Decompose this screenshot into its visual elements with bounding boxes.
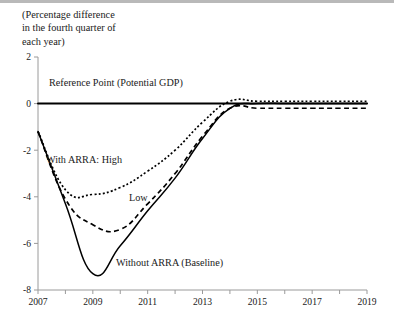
y-axis-tick-labels: 20-2-4-6-8 bbox=[23, 51, 31, 295]
x-tick-label: 2019 bbox=[357, 296, 376, 307]
x-tick-label: 2011 bbox=[138, 296, 157, 307]
y-axis-ticks bbox=[34, 57, 38, 290]
y-tick-label: -2 bbox=[23, 145, 31, 156]
chart-plot: 20-2-4-6-8 2007200920112013201520172019 … bbox=[0, 0, 394, 311]
x-axis-tick-labels: 2007200920112013201520172019 bbox=[28, 296, 376, 307]
x-tick-label: 2009 bbox=[83, 296, 102, 307]
x-tick-label: 2007 bbox=[28, 296, 47, 307]
series-label-baseline: Without ARRA (Baseline) bbox=[116, 257, 223, 269]
x-tick-label: 2017 bbox=[303, 296, 322, 307]
chart-axes bbox=[38, 57, 367, 290]
series-line-2 bbox=[38, 106, 367, 232]
figure-container: (Percentage difference in the fourth qua… bbox=[0, 0, 394, 311]
series-label-low: Low bbox=[129, 192, 148, 203]
y-tick-label: -4 bbox=[23, 191, 31, 202]
series-line-1 bbox=[38, 99, 367, 197]
x-axis-ticks bbox=[38, 290, 367, 294]
series-line-3 bbox=[38, 103, 367, 276]
x-tick-label: 2013 bbox=[193, 296, 212, 307]
y-tick-label: -8 bbox=[23, 284, 31, 295]
x-tick-label: 2015 bbox=[248, 296, 267, 307]
y-tick-label: 2 bbox=[26, 51, 31, 62]
y-tick-label: 0 bbox=[26, 98, 31, 109]
series-label-high: With ARRA: High bbox=[46, 154, 122, 165]
y-tick-label: -6 bbox=[23, 238, 31, 249]
chart-series-group bbox=[38, 99, 367, 276]
series-label-reference: Reference Point (Potential GDP) bbox=[49, 77, 183, 89]
